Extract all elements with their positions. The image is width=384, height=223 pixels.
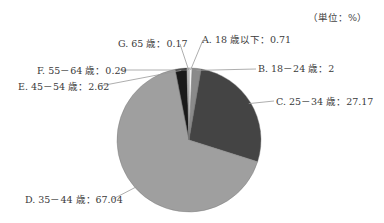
slice-label-c: C. 25－34 歳：27.17 xyxy=(276,96,373,107)
slice-label-f: F. 55－64 歳：0.29 xyxy=(37,65,127,76)
slice-label-g: G. 65 歳：0.17 xyxy=(118,38,188,49)
pie-chart: A. 18 歳以下：0.71B. 18－24 歳：2C. 25－34 歳：27.… xyxy=(0,0,384,223)
leader-line-c xyxy=(249,101,274,104)
pie-slices xyxy=(117,68,261,212)
slice-label-d: D. 35－44 歳：67.04 xyxy=(25,194,123,205)
slice-label-a: A. 18 歳以下：0.71 xyxy=(201,34,291,45)
slice-label-e: E. 45－54 歳：2.62 xyxy=(18,81,109,92)
slice-label-b: B. 18－24 歳：2 xyxy=(258,63,334,74)
